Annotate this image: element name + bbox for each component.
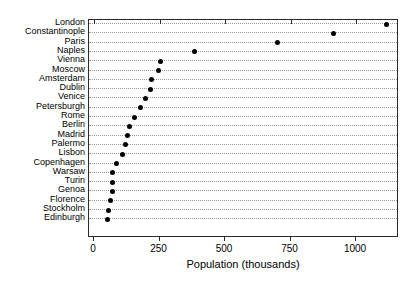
data-point: [148, 87, 153, 92]
gridline: [89, 60, 397, 61]
gridline: [89, 42, 397, 43]
x-axis-tick-label: 250: [150, 243, 167, 254]
data-point: [384, 22, 389, 27]
data-point: [331, 31, 336, 36]
gridline: [89, 97, 397, 98]
data-point: [132, 115, 137, 120]
x-axis-tick-mark: [290, 237, 291, 241]
gridline: [89, 144, 397, 145]
data-point: [127, 124, 132, 129]
gridline: [89, 135, 397, 136]
gridline: [89, 32, 397, 33]
data-point: [110, 180, 115, 185]
data-point: [114, 161, 119, 166]
gridline: [89, 163, 397, 164]
x-axis-tick-mark: [159, 237, 160, 241]
data-point: [138, 105, 143, 110]
data-point: [110, 170, 115, 175]
x-axis-top-tick-mark: [225, 20, 226, 24]
data-point: [110, 189, 115, 194]
x-axis-tick-label: 0: [90, 243, 96, 254]
y-axis-label-vienna: Vienna: [57, 55, 85, 64]
y-axis-label-edinburgh: Edinburgh: [44, 213, 85, 222]
gridline: [89, 79, 397, 80]
gridline: [89, 88, 397, 89]
gridline: [89, 218, 397, 219]
data-point: [143, 96, 148, 101]
x-axis-top-tick-mark: [356, 20, 357, 24]
gridline: [89, 181, 397, 182]
gridline: [89, 190, 397, 191]
gridline: [89, 153, 397, 154]
y-axis-label-constantinople: Constantinople: [25, 27, 85, 36]
data-point: [123, 142, 128, 147]
gridline: [89, 70, 397, 71]
data-point: [105, 217, 110, 222]
data-point: [106, 208, 111, 213]
dot-plot-figure: LondonConstantinopleParisNaplesViennaMos…: [0, 0, 413, 281]
x-axis-tick-label: 750: [281, 243, 298, 254]
gridline: [89, 200, 397, 201]
x-axis-tick-mark: [93, 237, 94, 241]
x-axis-tick-label: 500: [216, 243, 233, 254]
gridline: [89, 51, 397, 52]
x-axis-title: Population (thousands): [88, 258, 398, 271]
y-axis-label-lisbon: Lisbon: [58, 148, 85, 157]
x-axis-tick-mark: [224, 237, 225, 241]
y-axis-label-berlin: Berlin: [62, 120, 85, 129]
data-point: [149, 77, 154, 82]
x-axis-top-tick-mark: [291, 20, 292, 24]
data-point: [275, 40, 280, 45]
gridline: [89, 209, 397, 210]
gridline: [89, 172, 397, 173]
gridline: [89, 125, 397, 126]
gridline: [89, 107, 397, 108]
data-point: [125, 133, 130, 138]
x-axis-top-tick-mark: [160, 20, 161, 24]
x-axis-tick-label: 1000: [344, 243, 366, 254]
data-point: [120, 152, 125, 157]
plot-area: [88, 19, 398, 237]
data-point: [156, 68, 161, 73]
data-point: [108, 198, 113, 203]
data-point: [192, 49, 197, 54]
x-axis-tick-mark: [355, 237, 356, 241]
gridline: [89, 23, 397, 24]
data-point: [158, 59, 163, 64]
x-axis-top-tick-mark: [94, 20, 95, 24]
